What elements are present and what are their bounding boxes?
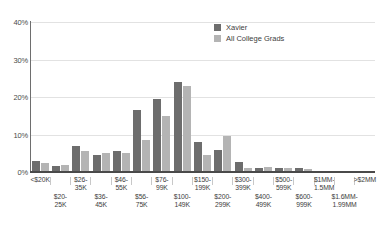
x-tick-label-line: 35K xyxy=(59,184,102,192)
legend-label: Xavier xyxy=(226,23,247,32)
bar xyxy=(72,146,80,172)
x-tick-mark xyxy=(131,177,132,185)
bar xyxy=(102,153,110,172)
bar-group xyxy=(174,22,191,172)
bar-group xyxy=(295,22,312,172)
bar xyxy=(93,155,101,172)
bar-group xyxy=(336,22,353,172)
bar-group xyxy=(255,22,272,172)
x-tick-label-line: 99K xyxy=(141,184,184,192)
x-tick-mark xyxy=(334,177,335,185)
x-tick-label-line: $76- xyxy=(141,176,184,184)
plot-area xyxy=(30,22,375,172)
bar xyxy=(183,86,191,172)
bar xyxy=(153,99,161,172)
x-tick-label: $300-399K xyxy=(222,176,265,192)
bar xyxy=(113,151,121,172)
x-tick-label-line: 499K xyxy=(242,201,285,209)
x-tick-label: $100-149K xyxy=(161,193,204,209)
x-tick-label: $500-599K xyxy=(262,176,305,192)
x-tick-mark xyxy=(253,177,254,185)
x-tick-label-line: >$2MM xyxy=(344,176,382,184)
bar xyxy=(142,140,150,172)
legend-item: Xavier xyxy=(214,22,284,33)
x-tick-label: $400-499K xyxy=(242,193,285,209)
x-axis-labels: <$20K$20-25K$26-35K$36-45K$46-55K$56-75K… xyxy=(30,174,375,222)
x-tick-label: $46-55K xyxy=(100,176,143,192)
x-tick-label-line: 25K xyxy=(39,201,82,209)
x-tick-label: $1.6MM-1.99MM xyxy=(323,193,366,209)
y-tick-label: 30% xyxy=(2,56,28,65)
bar xyxy=(162,116,170,172)
y-axis-line xyxy=(30,21,31,173)
x-tick-label: $150-199K xyxy=(181,176,224,192)
x-tick-mark xyxy=(293,177,294,185)
x-tick-label-line: 149K xyxy=(161,201,204,209)
bar xyxy=(174,82,182,172)
bar-group xyxy=(194,22,211,172)
x-tick-label-line: 75K xyxy=(120,201,163,209)
x-tick-mark xyxy=(172,177,173,185)
x-tick-label-line: $200- xyxy=(201,193,244,201)
bar-group xyxy=(52,22,69,172)
legend-item: All College Grads xyxy=(214,33,284,44)
x-tick-label-line: 299K xyxy=(201,201,244,209)
bar-group xyxy=(214,22,231,172)
bar-group xyxy=(153,22,170,172)
bar xyxy=(133,110,141,172)
x-tick-label-line: $56- xyxy=(120,193,163,201)
x-tick-label-line: $150- xyxy=(181,176,224,184)
x-tick-mark xyxy=(50,177,51,185)
x-tick-label: $56-75K xyxy=(120,193,163,209)
x-tick-mark xyxy=(90,177,91,185)
bar xyxy=(203,155,211,172)
bar xyxy=(194,142,202,172)
legend-label: All College Grads xyxy=(226,34,284,43)
bar-group xyxy=(133,22,150,172)
bar-group xyxy=(32,22,49,172)
x-tick-label-line: 999K xyxy=(283,201,326,209)
x-tick-label-line: $46- xyxy=(100,176,143,184)
y-tick-label: 10% xyxy=(2,131,28,140)
y-tick-label: 40% xyxy=(2,18,28,27)
x-tick-label-line: $500- xyxy=(262,176,305,184)
x-tick-label-line: $300- xyxy=(222,176,265,184)
x-tick-label: $36-45K xyxy=(80,193,123,209)
x-tick-label: $200-299K xyxy=(201,193,244,209)
x-tick-label: $600-999K xyxy=(283,193,326,209)
x-tick-label-line: 45K xyxy=(80,201,123,209)
bar-group xyxy=(275,22,292,172)
x-tick-label: <$20K xyxy=(19,176,62,184)
x-tick-label-line: 1.5MM xyxy=(303,184,346,192)
x-tick-mark xyxy=(212,177,213,185)
x-tick-label-line: $36- xyxy=(80,193,123,201)
x-tick-label-line: $1.6MM- xyxy=(323,193,366,201)
x-tick-label-line: 399K xyxy=(222,184,265,192)
x-tick-label-line: <$20K xyxy=(19,176,62,184)
legend-swatch-icon xyxy=(214,35,221,42)
x-tick-label-line: $20- xyxy=(39,193,82,201)
x-tick-label-line: $26- xyxy=(59,176,102,184)
x-tick-label: $20-25K xyxy=(39,193,82,209)
bar-group xyxy=(72,22,89,172)
x-tick-label-line: 599K xyxy=(262,184,305,192)
x-tick-label-line: $400- xyxy=(242,193,285,201)
y-tick-label: 20% xyxy=(2,93,28,102)
x-tick-label: >$2MM xyxy=(344,176,382,184)
bar xyxy=(214,150,222,173)
bar-group xyxy=(113,22,130,172)
x-tick-label: $26-35K xyxy=(59,176,102,192)
bar xyxy=(81,151,89,172)
x-axis-line xyxy=(30,171,375,173)
x-tick-label-line: 199K xyxy=(181,184,224,192)
chart-legend: XavierAll College Grads xyxy=(214,22,284,44)
x-tick-label-line: $100- xyxy=(161,193,204,201)
income-distribution-chart: 0%10%20%30%40% <$20K$20-25K$26-35K$36-45… xyxy=(0,0,382,225)
bar xyxy=(223,136,231,172)
x-tick-label-line: 55K xyxy=(100,184,143,192)
bar-group xyxy=(316,22,333,172)
x-tick-label: $1MM-1.5MM xyxy=(303,176,346,192)
x-tick-label-line: 1.99MM xyxy=(323,201,366,209)
x-tick-label-line: $600- xyxy=(283,193,326,201)
x-tick-label-line: $1MM- xyxy=(303,176,346,184)
